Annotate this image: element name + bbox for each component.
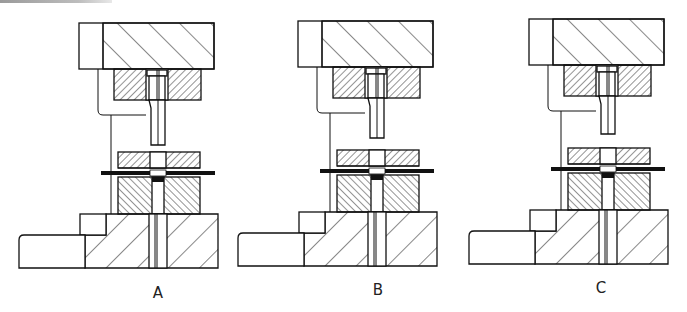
punch	[366, 68, 386, 138]
base-plate	[19, 235, 85, 268]
upper-die-shoe	[79, 23, 214, 69]
die-block	[118, 177, 200, 214]
stripper-plate	[337, 150, 419, 166]
panel-c	[469, 19, 668, 264]
stripper-plate	[568, 148, 650, 164]
panel-label-b: B	[373, 281, 383, 299]
base-plate	[238, 233, 304, 266]
base-plate	[469, 231, 535, 264]
panel-b	[238, 21, 437, 266]
die-block	[337, 175, 419, 212]
panel-label-a: A	[153, 284, 164, 302]
panel-a	[19, 23, 218, 268]
lower-die-shoe	[80, 214, 218, 268]
lower-die-shoe	[530, 210, 668, 264]
punch	[147, 70, 167, 145]
panel-label-c: C	[596, 279, 606, 297]
die-block	[568, 173, 650, 210]
upper-die-shoe	[298, 21, 433, 67]
stripper-plate	[118, 152, 200, 168]
lower-die-shoe	[299, 212, 437, 266]
punch	[597, 66, 617, 134]
die-diagram: ABC	[0, 0, 687, 312]
upper-die-shoe	[529, 19, 664, 65]
